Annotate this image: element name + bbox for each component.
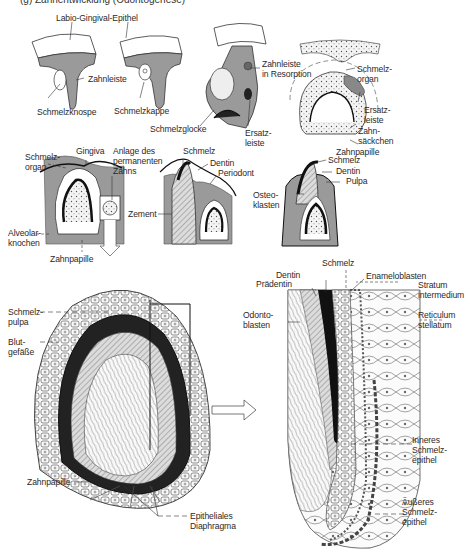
label-anlage-permanenter-zahn: Anlage des permanenten Zahns (113, 146, 163, 176)
label-inneres-schmelzepithel: Inneres Schmelz- epithel (412, 435, 447, 465)
label-schmelz-3: Schmelz (322, 258, 354, 268)
label-ersatzleiste-1: Ersatz- leiste (245, 128, 272, 148)
label-zahnleiste-in-resorption: Zahnleiste in Resorption (262, 59, 311, 79)
label-periodont: Periodont (218, 168, 254, 178)
label-epitheliales-diaphragma: Epitheliales Diaphragma (190, 511, 236, 531)
label-schmelzorgan-1: Schmelz- organ (357, 64, 392, 84)
label-schmelzorgan-2: Schmelz- organ (25, 152, 60, 172)
label-reticulum-stellatum: Reticulum stellatum (418, 310, 455, 330)
label-alveolarknochen: Alveolar- knochen (8, 228, 41, 248)
label-zahnpapille-2: Zahnpapille (50, 254, 93, 264)
cap-stage-drawing (120, 36, 182, 109)
label-stratum-intermedium: Stratum intermedium (418, 280, 464, 300)
label-zahnsaeckchen: Zahn- säckchen (358, 126, 394, 146)
detail-section-drawing (288, 290, 420, 548)
label-aeusseres-schmelzepithel: Äußeres Schmelz- epithel (402, 497, 437, 527)
label-dentin-2: Dentin (336, 166, 360, 176)
label-zahnleiste: Zahnleiste (88, 74, 127, 84)
label-schmelzknospe: Schmelzknospe (37, 107, 96, 117)
label-schmelzglocke: Schmelzglocke (150, 124, 207, 134)
label-zement: Zement (128, 209, 157, 219)
label-blutgefaesse: Blut- gefäße (8, 337, 34, 357)
bell-stage-large-drawing (34, 290, 210, 508)
label-schmelz-2: Schmelz (328, 155, 360, 165)
enlargement-arrow (212, 400, 256, 420)
label-schmelzpulpa: Schmelz- pulpa (8, 307, 43, 327)
label-dentin-1: Dentin (210, 158, 234, 168)
label-osteoklasten: Osteo- klasten (253, 190, 280, 210)
label-odontoblasten: Odonto- blasten (243, 310, 273, 330)
label-labio-gingival-epithel: Labio-Gingival-Epithel (56, 13, 138, 23)
label-schmelz-1: Schmelz (183, 146, 215, 156)
label-gingiva: Gingiva (76, 146, 104, 156)
resorption-stage-drawing (282, 162, 338, 246)
bell-stage-drawing (206, 23, 266, 128)
label-schmelzkappe: Schmelzkappe (114, 106, 169, 116)
bud-stage-drawing (32, 34, 96, 109)
label-zahnpapille-3: Zahnpapille (27, 477, 70, 487)
label-ersatzleiste-2: Ersatz- leiste (364, 105, 391, 125)
label-praedentin: Prädentin (256, 279, 292, 289)
label-pulpa: Pulpa (346, 176, 367, 186)
